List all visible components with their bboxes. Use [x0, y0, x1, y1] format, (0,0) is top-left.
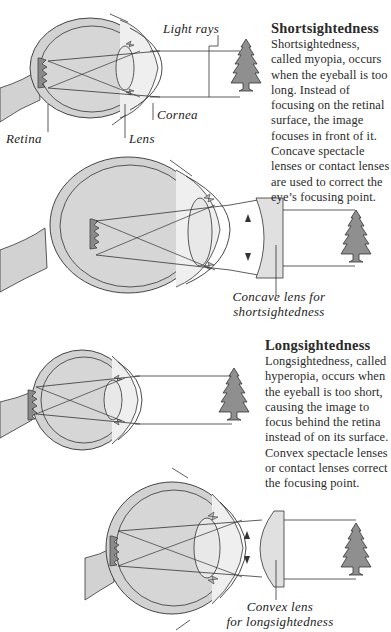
shortsightedness-description: Shortsightedness, called myopia, occurs …: [271, 37, 391, 205]
shortsightedness-text-block: Shortsightedness Shortsightedness, calle…: [271, 20, 391, 205]
longsightedness-text-block: Longsightedness Longsightedness, called …: [265, 337, 391, 492]
lens-label: Lens: [129, 131, 155, 147]
concave-caption-line1: Concave lens for: [224, 289, 334, 304]
longsightedness-heading: Longsightedness: [265, 337, 391, 354]
myopia-eye: [0, 14, 261, 138]
convex-lens-caption: Convex lens for longsightedness: [220, 599, 340, 629]
concave-lens-caption: Concave lens for shortsightedness: [224, 289, 334, 319]
light-rays-label: Light rays: [163, 21, 219, 37]
hyperopia-eye: [0, 350, 249, 450]
convex-caption-line2: for longsightedness: [220, 614, 340, 629]
retina-label: Retina: [6, 131, 42, 147]
convex-caption-line1: Convex lens: [220, 599, 340, 614]
cornea-label: Cornea: [157, 107, 198, 123]
longsightedness-description: Longsightedness, called hyperopia, occur…: [265, 354, 391, 492]
concave-caption-line2: shortsightedness: [224, 304, 334, 319]
shortsightedness-heading: Shortsightedness: [271, 20, 391, 37]
